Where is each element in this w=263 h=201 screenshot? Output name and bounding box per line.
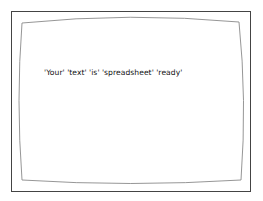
display-frame (0, 0, 263, 201)
screen-message: 'Your' 'text' 'is' 'spreadsheet' 'ready' (44, 68, 182, 77)
screen-bezel (19, 17, 244, 183)
